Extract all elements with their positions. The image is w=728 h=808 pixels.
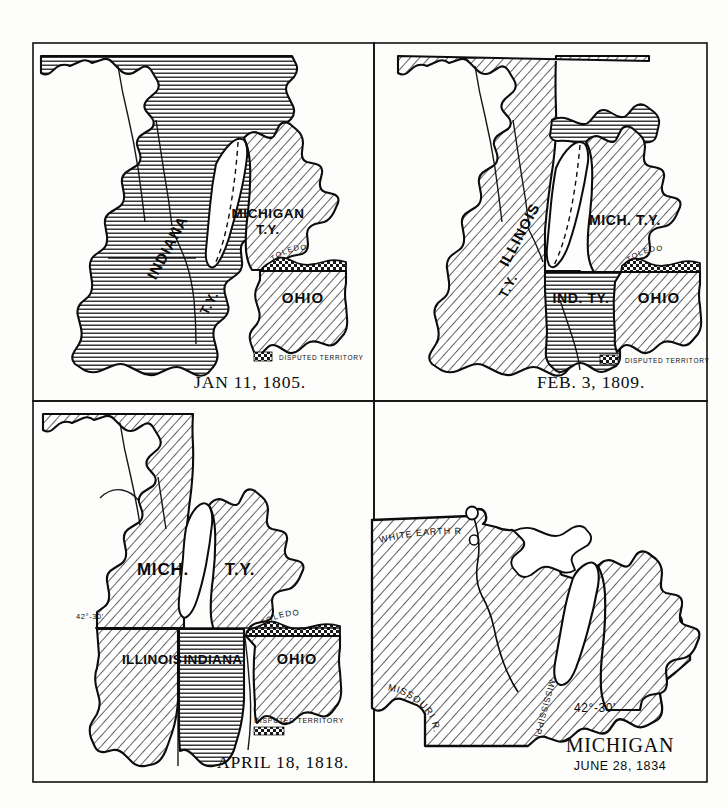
legend-label-1818: DISPUTED TERRITORY [254,717,344,724]
legend-swatch-1805 [254,352,272,361]
region-label-ohio-1805: OHIO [282,289,324,306]
figure-canvas: INDIANA T.Y. MICHIGAN T.Y. OHIO TOLEDO D… [0,0,728,808]
region-label-ohio-1809: OHIO [638,289,680,306]
panel-caption-1809: FEB. 3, 1809. [537,372,645,392]
panel-caption-1805: JAN 11, 1805. [194,372,306,392]
boundary-label-42-30-1834: 42°-30' [574,701,616,715]
region-label-michigan-1805: MICHIGAN [231,206,304,221]
legend-swatch-1809 [600,355,618,364]
lake-circle-north-1834 [466,507,478,520]
region-label-indiana-1809: IND. TY. [553,290,610,306]
historical-map-figure: INDIANA T.Y. MICHIGAN T.Y. OHIO TOLEDO D… [0,0,728,808]
region-label-illinois-1818: ILLINOIS [122,652,182,667]
legend-swatch-1818 [254,727,284,735]
region-sublabel-michigan-1805: T.Y. [256,222,279,237]
region-label-michigan-east-1818: T.Y. [225,560,256,579]
region-label-michigan-1818: MICH. [137,560,189,579]
legend-label-1805: DISPUTED TERRITORY [279,354,363,361]
legend-label-1809: DISPUTED TERRITORY [625,357,709,364]
region-label-michigan-1809: MICH. T.Y. [589,212,661,228]
region-ohio-1809 [614,272,702,353]
panel-caption-date-1834: JUNE 28, 1834 [574,759,667,773]
region-label-indiana-1818: INDIANA [183,652,242,667]
panel-caption-1818: APRIL 18, 1818. [217,752,349,772]
region-label-ohio-1818: OHIO [277,651,317,667]
lake-circle-small-1834 [470,535,479,545]
panel-caption-title-1834: MICHIGAN [566,734,675,756]
region-ohio-1805 [250,271,347,355]
region-ohio-1818 [246,636,341,724]
region-indiana-1818 [179,629,244,766]
region-illinois-1818 [90,629,178,766]
boundary-label-42-30-1818: 42°-30' [76,612,104,621]
